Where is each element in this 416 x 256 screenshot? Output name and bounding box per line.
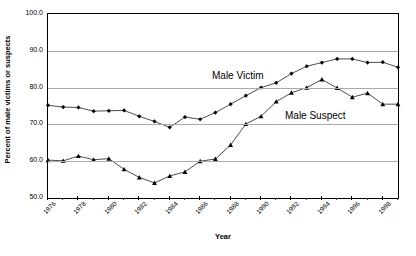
data-point	[137, 175, 142, 179]
x-axis-tick-label: 1984	[164, 200, 179, 215]
x-axis-tick-label: 1996	[346, 200, 361, 215]
x-axis-minor-tick	[123, 198, 124, 200]
data-point	[76, 154, 81, 158]
x-axis-tick-labels: 1976197819801982198419861988199019921994…	[47, 200, 399, 234]
y-axis-tick-label: 100.0	[25, 9, 43, 17]
data-point	[122, 167, 127, 171]
data-point	[213, 111, 217, 115]
x-axis-tick-label: 1994	[316, 200, 331, 215]
x-axis-minor-tick	[62, 198, 63, 200]
data-point	[320, 60, 324, 64]
x-axis-minor-tick	[336, 198, 337, 200]
x-axis-tick	[77, 196, 78, 200]
series-layer	[48, 14, 398, 198]
x-axis-minor-tick	[184, 198, 185, 200]
x-axis-tick	[260, 196, 261, 200]
x-axis-tick	[199, 196, 200, 200]
y-axis-tick-label: 90.0	[29, 46, 43, 54]
y-axis-tick-labels: 100.090.080.070.060.050.0	[0, 0, 47, 212]
data-point	[350, 57, 354, 61]
data-point	[92, 109, 96, 113]
data-point	[198, 117, 202, 121]
data-point	[381, 60, 385, 64]
series-label-male-suspect: Male Suspect	[285, 110, 346, 121]
x-axis-tick-label: 1998	[377, 200, 392, 215]
data-point	[183, 169, 188, 173]
data-point	[305, 64, 309, 68]
data-point	[76, 105, 80, 109]
y-axis-tick-label: 70.0	[29, 119, 43, 127]
x-axis-tick	[108, 196, 109, 200]
plot-area	[47, 13, 399, 199]
data-point	[274, 81, 278, 85]
x-axis-minor-tick	[214, 198, 215, 200]
data-point	[152, 119, 156, 123]
data-point	[61, 105, 65, 109]
x-axis-minor-tick	[154, 198, 155, 200]
data-point	[137, 114, 141, 118]
gridline	[48, 51, 398, 52]
data-point	[152, 181, 157, 185]
data-point	[365, 91, 370, 95]
x-axis-tick-label: 1986	[194, 200, 209, 215]
x-axis-tick-label: 1988	[224, 200, 239, 215]
data-point	[107, 109, 111, 113]
x-axis-tick	[382, 196, 383, 200]
plot-inner	[48, 14, 398, 198]
data-point	[365, 60, 369, 64]
gridline	[48, 161, 398, 162]
data-point	[244, 94, 248, 98]
data-point	[274, 99, 279, 103]
series-label-male-victim: Male Victim	[212, 70, 264, 81]
x-axis-tick	[169, 196, 170, 200]
data-point	[289, 72, 293, 76]
data-point	[396, 65, 400, 69]
x-axis-title: Year	[47, 232, 399, 241]
gridline	[48, 88, 398, 89]
data-point	[183, 115, 187, 119]
series-line-male-suspect	[48, 80, 398, 183]
x-axis-minor-tick	[397, 198, 398, 200]
x-axis-tick	[351, 196, 352, 200]
x-axis-tick-label: 1990	[255, 200, 270, 215]
x-axis-minor-tick	[275, 198, 276, 200]
x-axis-tick	[321, 196, 322, 200]
y-axis-tick-label: 50.0	[29, 193, 43, 201]
data-point	[335, 57, 339, 61]
data-point	[122, 108, 126, 112]
y-axis-tick-label: 80.0	[29, 83, 43, 91]
x-axis-tick	[290, 196, 291, 200]
x-axis-tick	[138, 196, 139, 200]
data-point	[168, 125, 172, 129]
x-axis-tick-label: 1992	[285, 200, 300, 215]
x-axis-tick-label: 1980	[103, 200, 118, 215]
x-axis-minor-tick	[245, 198, 246, 200]
x-axis-tick	[230, 196, 231, 200]
y-axis-tick-label: 60.0	[29, 156, 43, 164]
x-axis-tick-label: 1982	[133, 200, 148, 215]
x-axis-tick-label: 1978	[72, 200, 87, 215]
x-axis-minor-tick	[367, 198, 368, 200]
chart-container: Percent of male victims or suspects 100.…	[0, 0, 416, 256]
x-axis-tick	[47, 196, 48, 200]
x-axis-minor-tick	[93, 198, 94, 200]
data-point	[320, 77, 325, 81]
data-point	[229, 102, 233, 106]
data-point	[46, 103, 50, 107]
gridline	[48, 124, 398, 125]
data-point	[289, 90, 294, 94]
x-axis-minor-tick	[306, 198, 307, 200]
